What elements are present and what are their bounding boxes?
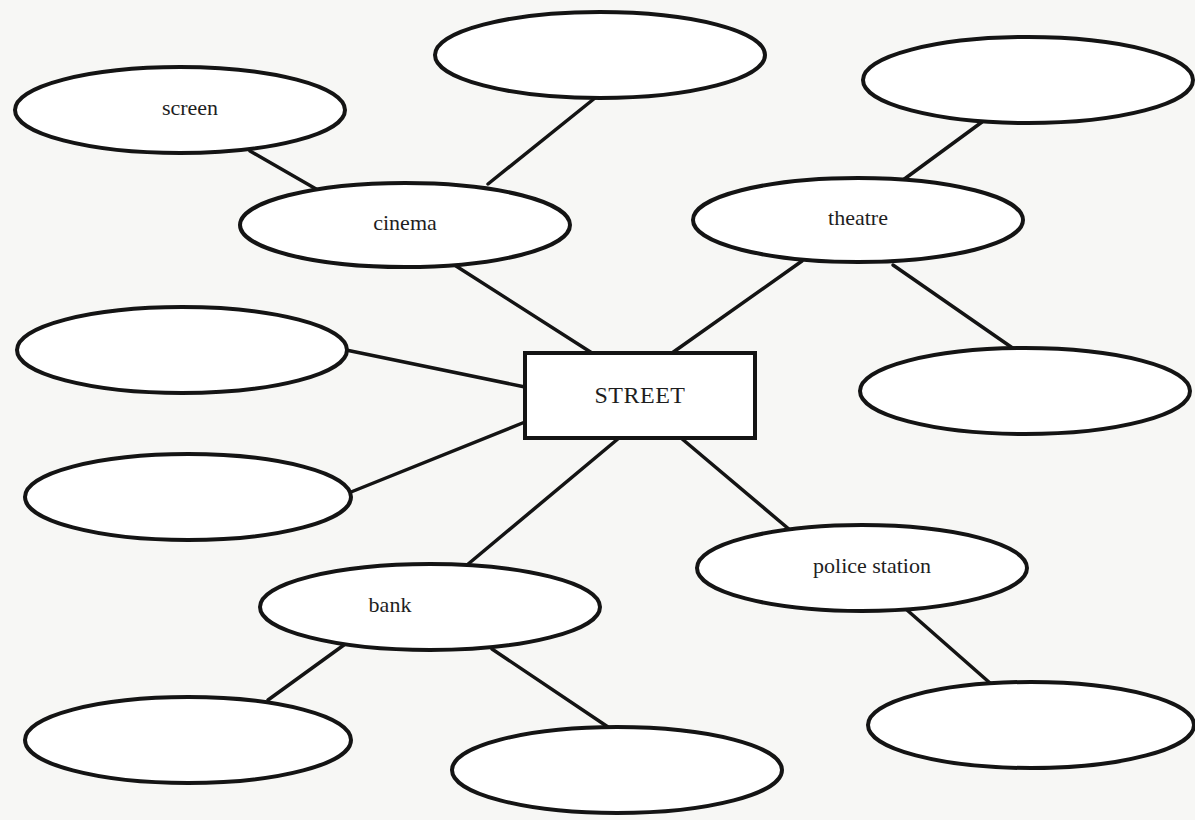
node-theatre: [693, 178, 1023, 262]
connector-STREET-to-bank: [467, 438, 619, 565]
blank-node-blank-top[interactable]: [435, 12, 765, 98]
central-node-street: [525, 353, 755, 438]
blank-node-blank-bottom-right[interactable]: [868, 682, 1194, 768]
blank-node-blank-top-right[interactable]: [863, 37, 1193, 123]
connector-STREET-to-police-station: [681, 438, 790, 530]
connector-blank-left-1-to-STREET: [346, 350, 525, 387]
blank-node-blank-bottom-center[interactable]: [452, 727, 782, 813]
blank-node-blank-right[interactable]: [860, 348, 1190, 434]
connector-bank-to-blank-bottom-center: [492, 649, 608, 727]
connector-blank-top-right-to-theatre: [903, 122, 982, 180]
node-bank: [260, 564, 600, 650]
connector-bank-to-blank-bottom-left: [268, 642, 348, 700]
blank-node-blank-left-1[interactable]: [17, 307, 347, 393]
mind-map-diagram: screencinematheatrepolice stationbankSTR…: [0, 0, 1195, 820]
diagram-canvas: [0, 0, 1195, 820]
connector-blank-top-to-cinema: [488, 98, 595, 184]
blank-node-blank-left-2[interactable]: [25, 454, 351, 540]
node-cinema: [240, 183, 570, 267]
connector-cinema-to-STREET: [456, 266, 592, 353]
node-police-station: [697, 525, 1027, 611]
connector-blank-left-2-to-STREET: [351, 422, 525, 492]
node-screen: [15, 67, 345, 153]
blank-node-blank-bottom-left[interactable]: [25, 697, 351, 783]
connector-police-station-to-blank-bottom-right: [907, 610, 990, 683]
connector-theatre-to-blank-right: [893, 265, 1014, 349]
connector-theatre-to-STREET: [672, 261, 802, 353]
